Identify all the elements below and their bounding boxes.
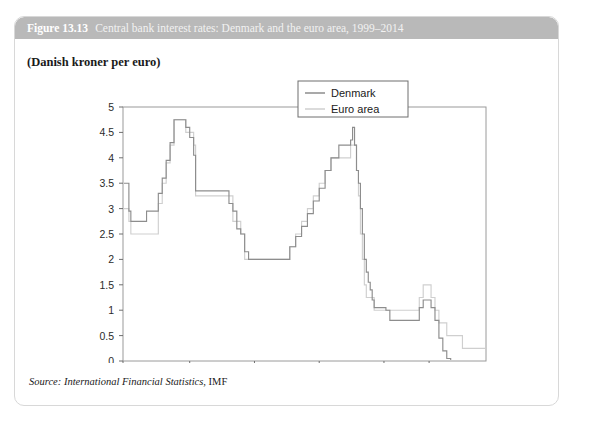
figure-header-bar: Figure 13.13 Central bank interest rates…: [15, 17, 558, 39]
figure-caption: Central bank interest rates: Denmark and…: [95, 22, 403, 34]
legend-label-euro-area: Euro area: [331, 103, 380, 115]
source-title: International Financial Statistics: [64, 376, 203, 387]
series-line-euro-area: [123, 120, 486, 349]
y-tick-label: 4.5: [99, 126, 114, 138]
chart-legend: DenmarkEuro area: [298, 81, 408, 117]
y-tick-label: 5: [108, 101, 114, 113]
y-tick-label: 3: [108, 203, 114, 215]
chart-series: [123, 120, 486, 363]
chart-area: 00.511.522.533.544.55 1999M12001M112004M…: [15, 73, 559, 363]
plot-frame: [123, 107, 486, 361]
chart-axes: [123, 107, 486, 361]
figure-card: Figure 13.13 Central bank interest rates…: [14, 16, 559, 406]
legend-label-denmark: Denmark: [331, 87, 376, 99]
source-label: Source:: [29, 376, 61, 387]
y-axis-ticks: 00.511.522.533.544.55: [99, 101, 123, 363]
series-line-denmark: [123, 120, 486, 363]
y-tick-label: 2.5: [99, 228, 114, 240]
y-tick-label: 3.5: [99, 177, 114, 189]
y-tick-label: 2: [108, 253, 114, 265]
figure-number: Figure 13.13: [27, 22, 88, 34]
source-org: , IMF: [203, 376, 227, 387]
chart-subtitle: (Danish kroner per euro): [27, 55, 160, 70]
y-tick-label: 0.5: [99, 330, 114, 342]
y-tick-label: 0: [108, 355, 114, 363]
source-note: Source: International Financial Statisti…: [29, 376, 227, 387]
y-tick-label: 1: [108, 304, 114, 316]
y-tick-label: 1.5: [99, 279, 114, 291]
y-tick-label: 4: [108, 152, 114, 164]
line-chart: 00.511.522.533.544.55 1999M12001M112004M…: [15, 73, 559, 363]
